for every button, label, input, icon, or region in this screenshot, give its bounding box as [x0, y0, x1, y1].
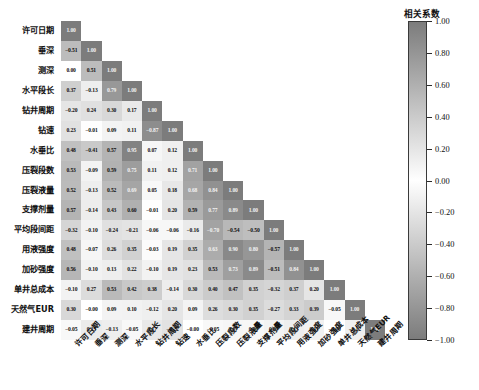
heatmap-cell-empty: [284, 101, 304, 121]
heatmap-cell: 0.00: [61, 61, 81, 81]
x-axis-labels: 许可日期垂深测深水平段长钻井周期钻速水垂比压裂段数压裂液量支撑剂量平均段间距用液…: [61, 341, 385, 390]
y-axis-label-8: 压裂液量: [22, 181, 54, 201]
heatmap-cell-empty: [223, 121, 243, 141]
heatmap-cell-empty: [324, 161, 344, 181]
heatmap-row: −0.32−0.10−0.24−0.21−0.06−0.06−0.16−0.70…: [61, 220, 385, 240]
heatmap-cell-empty: [102, 21, 122, 41]
colorbar-tick-3: [427, 117, 432, 118]
colorbar-tick-label-4: 0.20: [435, 144, 450, 153]
heatmap-cell-empty: [81, 21, 101, 41]
heatmap-cell-empty: [203, 141, 223, 161]
heatmap-cell: 0.53: [102, 280, 122, 300]
heatmap-cell-empty: [243, 101, 263, 121]
heatmap-cell: 0.57: [61, 200, 81, 220]
heatmap-cell-empty: [183, 41, 203, 61]
heatmap-cell-empty: [264, 181, 284, 201]
heatmap-cell-empty: [324, 101, 344, 121]
heatmap-cell-empty: [183, 81, 203, 101]
heatmap-cell-empty: [284, 81, 304, 101]
colorbar-tick-label-1: 0.80: [435, 48, 450, 57]
heatmap-cell: 0.09: [183, 300, 203, 320]
heatmap-cell: −0.57: [264, 240, 284, 260]
colorbar-tick-label-10: −1.00: [435, 336, 454, 345]
heatmap-cell: −0.07: [81, 240, 101, 260]
y-axis-label-3: 水平段长: [22, 81, 54, 101]
heatmap-cell-empty: [223, 41, 243, 61]
y-axis-label-10: 平均段间距: [14, 220, 54, 240]
heatmap-cell-empty: [264, 121, 284, 141]
y-axis-label-14: 天然气EUR: [11, 300, 54, 320]
heatmap-cell: 0.89: [223, 200, 243, 220]
heatmap-cell: 0.84: [284, 260, 304, 280]
heatmap-cell: 0.26: [102, 240, 122, 260]
heatmap-cell-empty: [203, 41, 223, 61]
heatmap-cell: 0.53: [203, 260, 223, 280]
colorbar-tick-4: [427, 149, 432, 150]
heatmap-cell: 1.00: [162, 121, 182, 141]
heatmap-cell-empty: [284, 200, 304, 220]
heatmap-cell-empty: [264, 200, 284, 220]
heatmap-cell: 0.12: [162, 161, 182, 181]
heatmap-row: 0.53−0.090.590.750.110.120.711.00: [61, 161, 385, 181]
heatmap-cell-empty: [223, 141, 243, 161]
heatmap-cell-empty: [264, 21, 284, 41]
y-axis-label-6: 水垂比: [30, 141, 54, 161]
heatmap-cell-empty: [264, 61, 284, 81]
y-axis-label-11: 用液强度: [22, 240, 54, 260]
heatmap-cell-empty: [365, 141, 385, 161]
heatmap-cell-empty: [324, 240, 344, 260]
heatmap-cell: 0.19: [162, 240, 182, 260]
heatmap-cell-empty: [243, 61, 263, 81]
heatmap-cell-empty: [284, 220, 304, 240]
y-axis-labels: 许可日期垂深测深水平段长钻井周期钻速水垂比压裂段数压裂液量支撑剂量平均段间距用液…: [0, 21, 58, 340]
y-axis-label-9: 支撑剂量: [22, 200, 54, 220]
heatmap-cell-empty: [284, 61, 304, 81]
y-axis-label-2: 测深: [38, 61, 54, 81]
heatmap-cell: −0.06: [162, 220, 182, 240]
heatmap-cell-empty: [243, 141, 263, 161]
colorbar-tick-label-6: −0.20: [435, 208, 454, 217]
heatmap-cell: −0.01: [81, 121, 101, 141]
colorbar-tick-10: [427, 340, 432, 341]
heatmap-row: 0.30−0.000.090.10−0.120.200.090.260.300.…: [61, 300, 385, 320]
heatmap-cell-empty: [264, 41, 284, 61]
heatmap-cell-empty: [162, 61, 182, 81]
heatmap-cell-empty: [264, 141, 284, 161]
heatmap-cell-empty: [243, 41, 263, 61]
colorbar-tick-8: [427, 276, 432, 277]
heatmap-cell-empty: [122, 21, 142, 41]
heatmap-cell: −0.05: [324, 300, 344, 320]
heatmap-cell: 0.26: [203, 300, 223, 320]
heatmap-cell-empty: [203, 81, 223, 101]
heatmap-row: 0.37−0.130.791.00: [61, 81, 385, 101]
heatmap-cell: 0.77: [203, 200, 223, 220]
heatmap-cell-empty: [365, 21, 385, 41]
heatmap-cell: 1.00: [203, 161, 223, 181]
heatmap-cell: 0.20: [304, 280, 324, 300]
heatmap-cell-empty: [142, 41, 162, 61]
heatmap-cell: 0.35: [122, 240, 142, 260]
heatmap-cell: −0.51: [61, 41, 81, 61]
heatmap-row: 0.56−0.100.130.22−0.100.190.230.530.730.…: [61, 260, 385, 280]
heatmap-cell-empty: [142, 61, 162, 81]
heatmap-cell: −0.20: [61, 101, 81, 121]
heatmap-cell-empty: [284, 121, 304, 141]
heatmap-cell-empty: [183, 101, 203, 121]
heatmap-cell-empty: [365, 200, 385, 220]
heatmap-cell: −0.03: [142, 240, 162, 260]
heatmap-cell: 1.00: [142, 101, 162, 121]
heatmap-cell: 1.00: [284, 240, 304, 260]
heatmap-cell-empty: [304, 21, 324, 41]
heatmap-cell-empty: [324, 61, 344, 81]
heatmap-cell-empty: [345, 141, 365, 161]
heatmap-cell-empty: [324, 121, 344, 141]
heatmap-cell: 0.40: [203, 280, 223, 300]
y-axis-label-1: 垂深: [38, 41, 54, 61]
heatmap-cell: −0.32: [264, 280, 284, 300]
heatmap-cell-empty: [345, 121, 365, 141]
colorbar-tick-0: [427, 21, 432, 22]
heatmap-cell-empty: [223, 61, 243, 81]
heatmap-cell: −0.14: [162, 280, 182, 300]
heatmap-cell: 0.60: [122, 200, 142, 220]
heatmap-cell-empty: [324, 21, 344, 41]
